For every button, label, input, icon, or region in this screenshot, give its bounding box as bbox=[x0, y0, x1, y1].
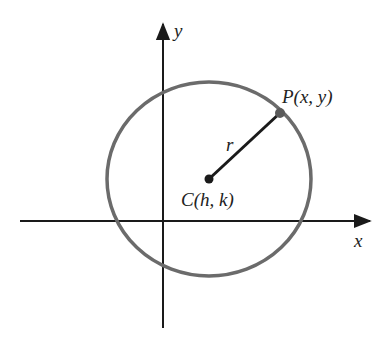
x-axis-label: x bbox=[353, 230, 363, 251]
center-point bbox=[205, 175, 214, 184]
center-label: C(h, k) bbox=[181, 189, 234, 211]
radius-label: r bbox=[226, 134, 234, 155]
circle-diagram: y x P(x, y) r C(h, k) bbox=[0, 0, 387, 338]
point-p-label: P(x, y) bbox=[281, 86, 333, 108]
point-p bbox=[275, 108, 285, 118]
radius-segment bbox=[209, 113, 280, 179]
y-axis-label: y bbox=[172, 20, 183, 41]
